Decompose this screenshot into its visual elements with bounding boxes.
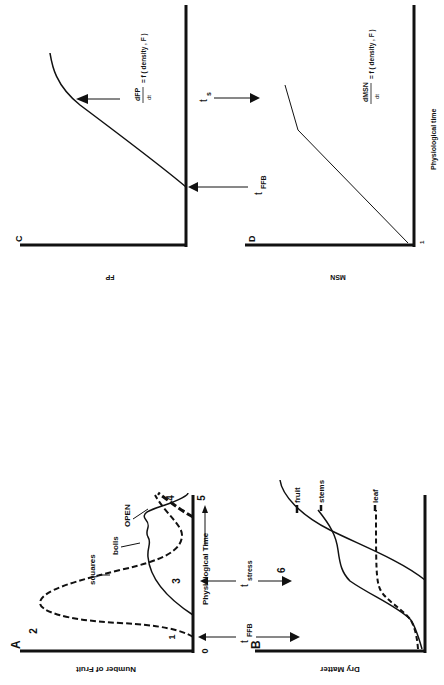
figure-svg: A Number of Fruit 0 1 2 3 4 5 squares bo…: [0, 0, 444, 685]
tick-3: 3: [171, 578, 182, 584]
svg-text:stress: stress: [246, 560, 253, 581]
label-stems: stems: [317, 479, 326, 503]
tick-1: 1: [167, 634, 177, 639]
d-eq-den: dt: [374, 94, 380, 99]
squares-curve: [40, 495, 193, 637]
panel-a: A Number of Fruit 0 1 2 3 4 5 squares bo…: [9, 493, 210, 674]
annotation-t-s: t s: [198, 92, 260, 103]
panel-a-label: A: [9, 640, 23, 649]
c-eq-rhs: = f ( density , F ): [140, 33, 148, 83]
annotation-t-stress: t stress: [200, 560, 292, 587]
label-fruit: fruit: [293, 487, 302, 503]
svg-text:t: t: [253, 192, 264, 195]
label-bolls: bolls: [111, 536, 120, 555]
figure-stage: A Number of Fruit 0 1 2 3 4 5 squares bo…: [0, 0, 444, 685]
tick-0: 0: [200, 648, 210, 653]
panel-d-label: D: [247, 235, 257, 242]
stems-curve: [318, 510, 422, 649]
d-eq-rhs: = f ( density , F ): [368, 29, 376, 79]
svg-text:s: s: [205, 92, 212, 96]
tick-5: 5: [196, 495, 207, 501]
leaf-curve: [376, 510, 418, 649]
panel-c: C FP t FFB dFP dt = f ( density , F ): [14, 5, 267, 281]
fp-curve: [50, 53, 186, 187]
d-start-tick: 1: [419, 240, 425, 244]
panel-d-ylabel: MSN: [330, 274, 346, 281]
label-open: OPEN: [123, 504, 132, 527]
panel-b-ylabel: Dry Matter: [320, 665, 360, 674]
tick-2: 2: [28, 628, 39, 634]
label-squares: squares: [88, 554, 97, 585]
svg-text:t: t: [239, 584, 250, 587]
label-leaf: leaf: [371, 489, 380, 503]
panel-d-xlabel: Physiological time: [430, 108, 438, 170]
panel-b-label: B: [249, 640, 263, 649]
panel-c-ylabel: FP: [105, 274, 114, 281]
panel-b: B Dry Matter 6 fruit stems leaf: [249, 479, 425, 674]
panel-d: D MSN 1 Physiological time dMSN dt = f (…: [245, 5, 438, 281]
c-eq-den: dt: [146, 95, 152, 100]
panel-c-label: C: [14, 235, 24, 242]
c-eq-num: dFP: [134, 87, 141, 101]
d-eq-num: dMSN: [362, 82, 369, 102]
figure-rotated: A Number of Fruit 0 1 2 3 4 5 squares bo…: [0, 0, 444, 685]
marker-6: 6: [276, 567, 287, 573]
msn-curve: [285, 85, 408, 243]
panel-a-ylabel: Number of Fruit: [76, 665, 136, 674]
svg-text:FFB: FFB: [260, 175, 267, 189]
svg-text:t: t: [198, 99, 209, 102]
svg-text:FFB: FFB: [246, 623, 253, 637]
